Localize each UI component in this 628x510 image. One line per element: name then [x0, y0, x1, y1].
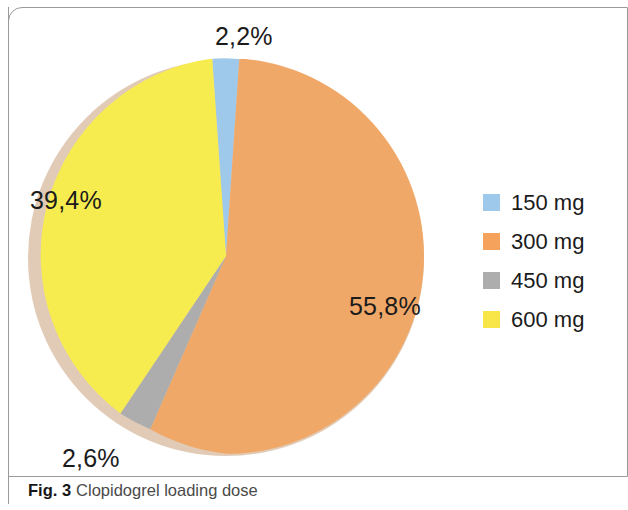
- pie-data-label-600mg: 39,4%: [30, 186, 102, 215]
- legend-item-600mg[interactable]: 600 mg: [483, 300, 603, 339]
- legend-swatch-450mg: [483, 272, 500, 289]
- pie-chart-svg: [20, 48, 440, 468]
- pie-data-label-300mg: 55,8%: [349, 292, 421, 321]
- legend-label-300mg: 300 mg: [511, 231, 584, 253]
- legend-item-450mg[interactable]: 450 mg: [483, 261, 603, 300]
- pie-data-label-150mg: 2,2%: [215, 22, 273, 51]
- legend-swatch-600mg: [483, 311, 500, 328]
- legend-label-150mg: 150 mg: [511, 192, 584, 214]
- figure-caption: Fig. 3Clopidogrel loading dose: [28, 481, 258, 500]
- pie-slices: [41, 58, 440, 455]
- figure-caption-text: Clopidogrel loading dose: [76, 481, 258, 499]
- legend-item-150mg[interactable]: 150 mg: [483, 183, 603, 222]
- pie-data-label-450mg: 2,6%: [62, 444, 120, 473]
- legend-label-600mg: 600 mg: [511, 309, 584, 331]
- figure-number: Fig. 3: [28, 481, 71, 499]
- legend-item-300mg[interactable]: 300 mg: [483, 222, 603, 261]
- legend-label-450mg: 450 mg: [511, 270, 584, 292]
- chart-legend: 150 mg 300 mg 450 mg 600 mg: [483, 183, 603, 339]
- legend-swatch-300mg: [483, 233, 500, 250]
- legend-swatch-150mg: [483, 194, 500, 211]
- pie-chart: 2,2% 39,4% 55,8% 2,6% 150 mg 300 mg 450 …: [0, 0, 605, 470]
